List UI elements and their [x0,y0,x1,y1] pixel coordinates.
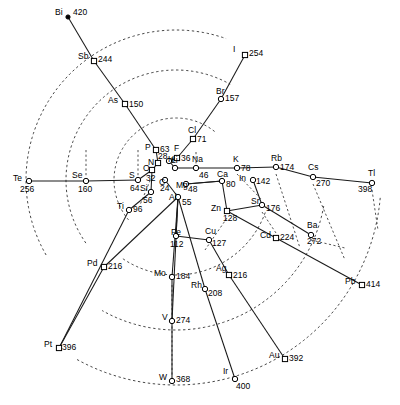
connection-line [276,238,362,285]
figure-canvas: Bi420I254Sb244Br157As150Cl71P63F36N28HO3… [0,0,400,405]
element-marker-li[interactable] [172,165,177,170]
dashed-arc-gridlines [26,30,380,385]
element-marker-cl[interactable] [190,136,195,141]
element-marker-tl[interactable] [369,180,374,185]
connection-line [193,99,221,139]
connection-line [221,55,245,99]
element-marker-te[interactable] [26,178,31,183]
element-marker-k[interactable] [234,165,239,170]
radial-spoke-gridline [205,218,227,250]
element-marker-fe[interactable] [173,233,178,238]
element-marker-ti[interactable] [126,207,131,212]
connection-line [253,180,262,205]
radial-spoke-gridline [276,174,300,248]
arc-gridline [66,70,230,243]
element-marker-n[interactable] [155,160,160,165]
connection-line [227,205,262,211]
element-marker-cd[interactable] [273,235,278,240]
element-marker-i[interactable] [242,52,247,57]
element-marker-c[interactable] [162,177,167,182]
connection-line [59,267,104,348]
element-marker-rb[interactable] [273,164,278,169]
element-marker-mo[interactable] [169,274,174,279]
element-marker-se[interactable] [83,178,88,183]
arc-gridline [122,212,266,275]
connection-line [165,180,178,197]
element-marker-al[interactable] [175,194,180,199]
element-marker-s[interactable] [135,177,140,182]
connection-line [186,181,222,184]
element-marker-sb[interactable] [91,58,96,63]
element-marker-na[interactable] [193,165,198,170]
element-marker-bi[interactable] [66,15,70,19]
arc-gridline [26,30,226,255]
connection-line [94,61,125,104]
radial-spoke-gridline [313,184,345,260]
element-marker-w[interactable] [169,378,174,383]
element-marker-v[interactable] [169,318,174,323]
element-marker-ba[interactable] [308,232,313,237]
arc-gridline [77,198,381,385]
connection-line [151,170,152,192]
connection-line [276,167,313,177]
element-connection-lines [29,17,372,381]
connection-line [313,177,372,183]
arc-gridline [114,118,215,220]
element-marker-cs[interactable] [310,174,315,179]
element-marker-rh[interactable] [202,286,207,291]
connection-line [129,192,151,210]
element-marker-si[interactable] [148,189,153,194]
connection-line [176,236,209,240]
radial-spoke-gridline [311,240,345,248]
element-marker-h[interactable] [166,158,171,163]
element-marker-ag[interactable] [226,272,231,277]
element-markers [26,15,374,384]
element-marker-pd[interactable] [101,264,106,269]
element-marker-zn[interactable] [224,208,229,213]
element-marker-as[interactable] [122,101,127,106]
radial-spoke-gridline [372,190,378,230]
connection-line [68,17,94,61]
element-marker-o[interactable] [149,167,154,172]
element-marker-ir[interactable] [232,376,237,381]
connection-line [125,104,156,150]
element-marker-f[interactable] [174,155,179,160]
element-marker-p[interactable] [153,147,158,152]
connection-line [209,240,229,275]
connection-line [237,167,276,168]
element-marker-au[interactable] [282,356,287,361]
connection-line [205,289,235,379]
element-marker-br[interactable] [218,96,223,101]
connection-line [262,205,311,235]
radial-diagram-svg [0,0,400,405]
element-marker-pt[interactable] [56,345,61,350]
connection-line [86,180,138,181]
connection-line [104,197,178,267]
element-marker-cu[interactable] [206,237,211,242]
element-marker-ca[interactable] [219,178,224,183]
element-marker-pb[interactable] [359,282,364,287]
radial-spoke-gridline [262,212,276,233]
element-marker-mg[interactable] [183,181,188,186]
element-marker-in[interactable] [250,177,255,182]
connection-line [59,210,129,348]
element-marker-sr[interactable] [259,202,264,207]
connection-line [227,211,276,238]
connection-line [222,181,227,211]
